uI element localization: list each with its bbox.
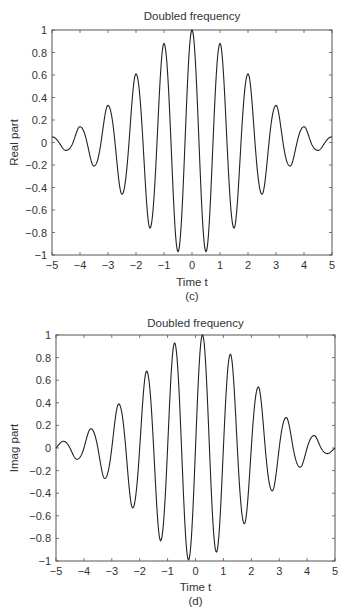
y-tick-label: 1 (45, 329, 51, 341)
x-tick-label: 2 (248, 565, 254, 577)
x-tick-label: 4 (301, 259, 307, 271)
x-axis-label: Time t (176, 276, 208, 288)
x-tick-label: −5 (46, 259, 59, 271)
x-tick-label: 5 (329, 259, 335, 271)
y-tick-label: −0.4 (29, 487, 51, 499)
y-tick-label: −0.8 (25, 227, 47, 239)
axes-box (52, 30, 332, 255)
y-tick-label: 0.6 (32, 69, 47, 81)
x-tick-label: 0 (192, 565, 198, 577)
y-tick-label: −0.2 (25, 159, 47, 171)
x-tick-label: −1 (161, 565, 174, 577)
y-axis-label: Imag part (8, 423, 20, 472)
y-tick-label: 0 (45, 442, 51, 454)
y-tick-label: −1 (34, 249, 47, 261)
y-tick-label: 0.8 (36, 352, 51, 364)
x-axis-label: Time t (180, 581, 212, 593)
series-line (52, 30, 332, 252)
series-line (56, 335, 335, 560)
x-tick-label: −2 (130, 259, 143, 271)
x-tick-label: 3 (276, 565, 282, 577)
y-tick-label: 1 (41, 24, 47, 36)
y-tick-label: −1 (38, 555, 51, 567)
y-tick-label: 0.4 (32, 92, 47, 104)
x-tick-label: 2 (245, 259, 251, 271)
chart-panel-c: Doubled frequency−5−4−3−2−1012345−1−0.8−… (8, 10, 335, 302)
y-tick-label: −0.6 (25, 204, 47, 216)
x-tick-label: 1 (220, 565, 226, 577)
chart-title: Doubled frequency (144, 10, 241, 22)
chart-panel-d: Doubled frequency−5−4−3−2−1012345−1−0.8−… (8, 317, 338, 607)
x-tick-label: 5 (332, 565, 338, 577)
x-tick-label: −4 (78, 565, 91, 577)
x-tick-label: 0 (189, 259, 195, 271)
x-tick-label: −4 (74, 259, 87, 271)
y-tick-label: −0.4 (25, 182, 47, 194)
figure: Doubled frequency−5−4−3−2−1012345−1−0.8−… (0, 0, 350, 612)
x-tick-label: −2 (133, 565, 146, 577)
x-tick-label: 1 (217, 259, 223, 271)
x-tick-label: −3 (102, 259, 115, 271)
panel-caption: (c) (185, 290, 199, 302)
x-tick-label: −3 (106, 565, 119, 577)
y-tick-label: −0.2 (29, 465, 51, 477)
y-tick-label: −0.8 (29, 532, 51, 544)
y-tick-label: 0 (41, 137, 47, 149)
chart-title: Doubled frequency (147, 317, 244, 329)
y-axis-label: Real part (8, 118, 20, 165)
x-tick-label: −1 (158, 259, 171, 271)
x-tick-label: 3 (273, 259, 279, 271)
panel-caption: (d) (188, 595, 202, 607)
y-tick-label: 0.2 (32, 114, 47, 126)
x-tick-label: 4 (304, 565, 310, 577)
y-tick-label: 0.6 (36, 374, 51, 386)
y-tick-label: 0.8 (32, 47, 47, 59)
y-tick-label: 0.2 (36, 419, 51, 431)
y-tick-label: −0.6 (29, 510, 51, 522)
y-tick-label: 0.4 (36, 397, 51, 409)
x-tick-label: −5 (50, 565, 63, 577)
